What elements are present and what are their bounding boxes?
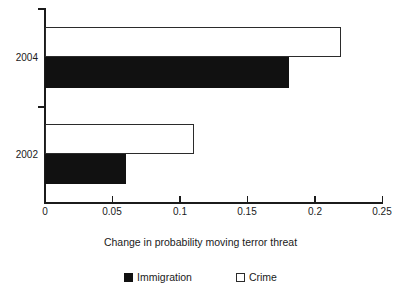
outlined-square-icon <box>236 273 245 282</box>
y-tick-label-2002: 2002 <box>16 149 38 161</box>
bar-2002-immigration <box>45 154 126 184</box>
bar-chart: 0 0.05 0.1 0.15 0.2 0.25 2004 2002 Chang… <box>0 0 401 299</box>
x-tick-label-0.25: 0.25 <box>372 206 391 218</box>
x-tick-label-0.05: 0.05 <box>102 206 121 218</box>
x-tick-label-0.1: 0.1 <box>173 206 187 218</box>
bar-2004-immigration <box>45 57 289 88</box>
legend-label-immigration: Immigration <box>137 271 192 284</box>
y-axis-top-cap <box>38 8 45 10</box>
y-tick-label-2004: 2004 <box>16 52 38 64</box>
x-axis-title: Change in probability moving terror thre… <box>0 236 401 249</box>
x-tick-label-0: 0 <box>42 206 48 218</box>
y-tick-divider <box>38 106 45 108</box>
plot-area <box>45 8 383 203</box>
legend-item-immigration: Immigration <box>124 271 192 284</box>
legend-label-crime: Crime <box>249 271 277 284</box>
x-tick-label-0.2: 0.2 <box>308 206 322 218</box>
bar-2004-crime <box>45 27 341 57</box>
x-tick-label-0.15: 0.15 <box>237 206 256 218</box>
chart-legend: Immigration Crime <box>0 271 401 284</box>
bar-2002-crime <box>45 124 194 154</box>
filled-square-icon <box>124 273 133 282</box>
legend-item-crime: Crime <box>236 271 277 284</box>
